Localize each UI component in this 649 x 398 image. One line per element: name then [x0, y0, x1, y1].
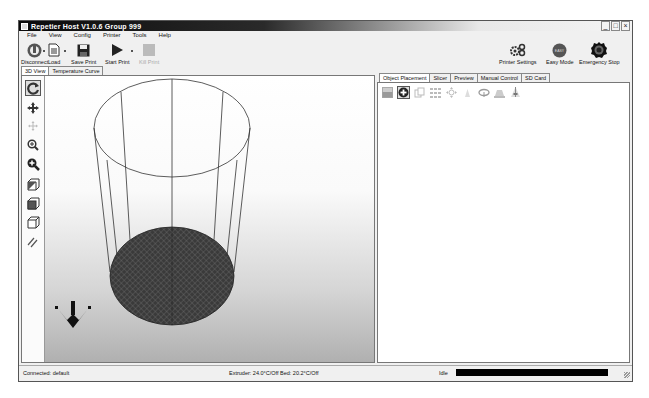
rotate-object-button[interactable] — [477, 86, 490, 99]
window-title: Repetier Host V1.0.6 Group 999 — [31, 23, 141, 30]
autoposition-button[interactable] — [429, 86, 442, 99]
document-icon — [48, 43, 60, 57]
main-toolbar: Disconnect Load Save Print Start Print K… — [19, 42, 632, 66]
menu-tools[interactable]: Tools — [133, 32, 147, 41]
move-object-icon — [27, 120, 39, 132]
easy-mode-icon: EASY — [552, 43, 567, 58]
save-print-button[interactable]: Save Print — [71, 42, 96, 65]
parallel-view-icon — [27, 236, 39, 248]
cut-object-icon — [510, 87, 521, 98]
add-object-button[interactable] — [397, 86, 410, 99]
menu-view[interactable]: View — [49, 32, 62, 41]
save-stl-icon — [382, 87, 393, 98]
tab-sd-card[interactable]: SD Card — [521, 73, 550, 82]
cut-object-button[interactable] — [509, 86, 522, 99]
rotate-view-button[interactable] — [25, 80, 41, 96]
print-bed — [110, 227, 234, 325]
connection-status: Connected: default — [23, 370, 69, 376]
rotate-object-icon — [478, 87, 490, 98]
easy-mode-button[interactable]: EASY Easy Mode — [546, 42, 574, 65]
zoom-view-button[interactable] — [25, 137, 41, 153]
printer-volume-scene — [45, 76, 374, 362]
center-object-button[interactable] — [445, 86, 458, 99]
front-view-button[interactable] — [25, 195, 41, 211]
tab-preview[interactable]: Preview — [450, 73, 478, 82]
axis-gizmo — [55, 301, 91, 328]
object-toolbar — [381, 85, 522, 99]
disconnect-dropdown[interactable] — [43, 50, 45, 52]
menu-printer[interactable]: Printer — [103, 32, 121, 41]
save-stl-button[interactable] — [381, 86, 394, 99]
scale-object-button[interactable] — [461, 86, 474, 99]
power-plug-icon — [27, 43, 42, 58]
iso-view-icon — [27, 178, 40, 191]
tab-slicer[interactable]: Slicer — [429, 73, 451, 82]
floppy-disk-icon — [77, 44, 90, 57]
svg-text:EASY: EASY — [555, 49, 565, 53]
title-bar: Repetier Host V1.0.6 Group 999 _ □ × — [19, 21, 632, 31]
view-toolbar — [22, 76, 45, 362]
tab-manual-control[interactable]: Manual Control — [477, 73, 522, 82]
zoom-fit-button[interactable] — [25, 156, 41, 172]
temperature-status: Extruder: 24.0°C/Off Bed: 20.2°C/Off — [229, 370, 319, 376]
drop-object-icon — [494, 87, 505, 98]
scale-object-icon — [462, 87, 473, 98]
app-icon — [21, 23, 28, 30]
front-view-icon — [27, 197, 40, 210]
kill-print-button[interactable]: Kill Print — [139, 42, 159, 65]
rotate-icon — [27, 82, 40, 95]
app-window: Repetier Host V1.0.6 Group 999 _ □ × Fil… — [18, 20, 633, 382]
window-controls: _ □ × — [601, 21, 630, 31]
iso-view-button[interactable] — [25, 176, 41, 192]
gears-icon — [510, 43, 526, 57]
emergency-stop-icon — [591, 42, 607, 58]
zoom-icon — [27, 139, 39, 151]
tab-3d-view[interactable]: 3D View — [21, 66, 49, 75]
drop-object-button[interactable] — [493, 86, 506, 99]
printer-settings-button[interactable]: Printer Settings — [499, 42, 537, 65]
top-view-icon — [27, 216, 40, 229]
top-view-button[interactable] — [25, 214, 41, 230]
disconnect-button[interactable]: Disconnect — [21, 42, 48, 65]
status-bar: Connected: default Extruder: 24.0°C/Off … — [19, 365, 632, 380]
load-dropdown[interactable] — [64, 50, 66, 52]
move-view-button[interactable] — [25, 100, 41, 116]
object-placement-panel — [377, 82, 630, 363]
center-object-icon — [446, 87, 457, 98]
start-print-dropdown[interactable] — [131, 50, 133, 52]
load-button[interactable]: Load — [48, 42, 60, 65]
print-progress-bar — [456, 369, 608, 376]
tab-temperature-curve[interactable]: Temperature Curve — [48, 66, 103, 75]
move-object-button[interactable] — [25, 118, 41, 134]
copy-object-button[interactable] — [413, 86, 426, 99]
move-icon — [27, 102, 39, 114]
menu-file[interactable]: File — [27, 32, 37, 41]
autoposition-icon — [430, 87, 441, 98]
3d-viewport[interactable] — [45, 76, 374, 362]
printer-state: Idle — [439, 370, 448, 376]
left-tab-strip: 3D View Temperature Curve — [21, 66, 102, 75]
maximize-button[interactable]: □ — [611, 21, 620, 31]
tab-object-placement[interactable]: Object Placement — [379, 73, 430, 82]
start-print-button[interactable]: Start Print — [105, 42, 129, 65]
copy-object-icon — [414, 87, 425, 98]
parallel-view-button[interactable] — [25, 234, 41, 250]
emergency-stop-button[interactable]: Emergency Stop — [579, 42, 620, 65]
3d-view-panel — [21, 75, 375, 363]
play-icon — [110, 43, 124, 57]
menu-bar: File View Config Printer Tools Help — [19, 32, 171, 41]
stop-icon — [143, 44, 155, 56]
add-object-icon — [398, 87, 409, 98]
resize-grip[interactable] — [624, 372, 630, 378]
menu-help[interactable]: Help — [159, 32, 171, 41]
minimize-button[interactable]: _ — [601, 21, 610, 31]
zoom-fit-icon — [26, 157, 40, 171]
close-button[interactable]: × — [621, 21, 630, 31]
right-tab-strip: Object Placement Slicer Preview Manual C… — [379, 73, 549, 82]
menu-config[interactable]: Config — [74, 32, 91, 41]
